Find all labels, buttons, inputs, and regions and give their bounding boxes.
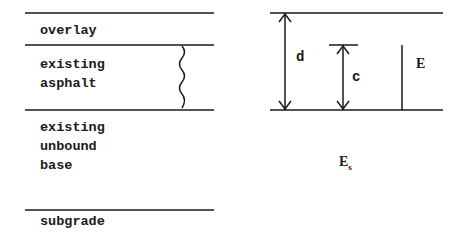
symbol-Es: Es: [339, 154, 352, 172]
symbol-Es-sub: s: [348, 162, 352, 172]
label-base-1: existing: [40, 118, 105, 137]
pavement-layer-diagram: overlay existing asphalt existing unboun…: [0, 0, 462, 242]
symbol-d: d: [296, 49, 304, 65]
label-base-2: unbound: [40, 137, 97, 156]
crack-wavy-line: [180, 46, 185, 108]
label-base-3: base: [40, 156, 72, 175]
symbol-c: c: [352, 69, 360, 85]
label-subgrade: subgrade: [40, 212, 105, 231]
label-existing-asphalt-2: asphalt: [40, 74, 97, 93]
symbol-Es-main: E: [339, 154, 348, 169]
label-overlay: overlay: [40, 21, 97, 40]
label-existing-asphalt-1: existing: [40, 55, 105, 74]
symbol-E: E: [416, 56, 425, 72]
